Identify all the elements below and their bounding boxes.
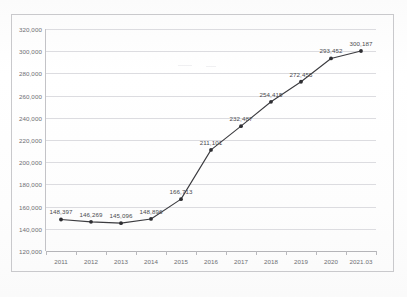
- x-axis-tick-label: 2015: [174, 258, 188, 265]
- data-point-marker: [149, 217, 153, 221]
- data-point-marker: [179, 197, 183, 201]
- x-axis-tick-label: 2017: [234, 258, 248, 265]
- x-axis-tick: [316, 251, 317, 255]
- data-point-label: 232,487: [229, 115, 252, 122]
- data-point-label: 293,452: [319, 47, 342, 54]
- x-axis-tick-label: 2019: [294, 258, 308, 265]
- data-point-label: 272,455: [289, 71, 312, 78]
- x-axis-tick-label: 2014: [144, 258, 158, 265]
- x-axis-tick: [196, 251, 197, 255]
- y-axis-tick-label: 120,000: [19, 248, 42, 255]
- y-axis-tick-label: 320,000: [19, 26, 42, 33]
- data-point-marker: [359, 49, 363, 53]
- x-axis-tick: [286, 251, 287, 255]
- data-point-marker: [89, 220, 93, 224]
- series-line: [61, 51, 361, 223]
- scan-artifact: [178, 65, 192, 66]
- data-point-label: 211,101: [200, 139, 223, 146]
- data-point-marker: [209, 148, 213, 152]
- x-axis-tick-label: 2016: [204, 258, 218, 265]
- x-axis-tick-label: 2012: [84, 258, 98, 265]
- x-axis-tick-label: 2011: [54, 258, 68, 265]
- y-axis-tick-label: 280,000: [19, 70, 42, 77]
- x-axis-tick: [166, 251, 167, 255]
- data-point-label: 145,096: [109, 212, 132, 219]
- y-axis-tick-label: 240,000: [19, 114, 42, 121]
- y-axis-tick-label: 200,000: [19, 159, 42, 166]
- x-axis-tick-label: 2021.03: [349, 258, 372, 265]
- data-point-marker: [329, 57, 333, 61]
- data-point-marker: [299, 80, 303, 84]
- y-axis-tick-label: 300,000: [19, 48, 42, 55]
- chart-title: [0, 0, 407, 5]
- data-point-label: 148,397: [49, 208, 72, 215]
- x-axis-tick-label: 2013: [114, 258, 128, 265]
- x-axis-tick: [256, 251, 257, 255]
- series-markers: [59, 49, 363, 225]
- x-axis-tick: [76, 251, 77, 255]
- data-point-label: 300,187: [349, 40, 372, 47]
- data-point-label: 166,713: [169, 188, 192, 195]
- data-point-marker: [269, 100, 273, 104]
- y-axis-tick-label: 140,000: [19, 225, 42, 232]
- x-axis-tick: [46, 251, 47, 255]
- data-point-marker: [59, 218, 63, 222]
- data-point-marker: [119, 221, 123, 225]
- y-axis-tick-label: 260,000: [19, 92, 42, 99]
- y-axis-tick-label: 180,000: [19, 181, 42, 188]
- y-axis-tick-label: 220,000: [19, 137, 42, 144]
- y-axis-tick-label: 160,000: [19, 203, 42, 210]
- chart-page: 120,000140,000160,000180,000200,000220,0…: [0, 0, 407, 297]
- data-point-label: 146,269: [79, 211, 102, 218]
- scan-artifact: [206, 66, 216, 67]
- x-axis-tick: [376, 251, 377, 255]
- data-point-label: 148,896: [139, 208, 162, 215]
- x-axis-tick-label: 2020: [324, 258, 338, 265]
- data-point-label: 254,415: [259, 91, 282, 98]
- x-axis-tick: [136, 251, 137, 255]
- plot-area: 120,000140,000160,000180,000200,000220,0…: [46, 29, 376, 251]
- x-axis-tick: [106, 251, 107, 255]
- x-axis-tick: [226, 251, 227, 255]
- x-axis-tick: [346, 251, 347, 255]
- data-point-marker: [239, 124, 243, 128]
- gridline: [46, 251, 376, 252]
- x-axis-tick-label: 2018: [264, 258, 278, 265]
